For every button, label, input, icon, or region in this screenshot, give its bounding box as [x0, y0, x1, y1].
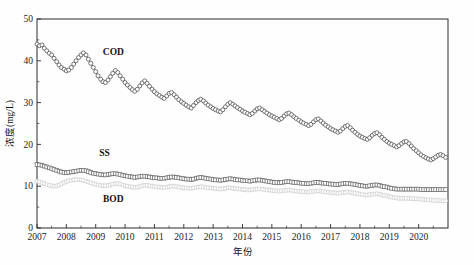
x-tick-label: 2016 — [292, 232, 311, 242]
x-axis-title: 年份 — [233, 246, 253, 257]
line-chart: 01020304050 2007200820092010201120122013… — [0, 0, 474, 265]
series-line-cod — [37, 44, 446, 160]
data-point — [84, 53, 88, 57]
series-annotations: CODSSBOD — [99, 47, 124, 205]
series-label-ss: SS — [99, 148, 110, 158]
y-axis-title: 浓度(mg/L) — [4, 100, 16, 147]
x-axis-ticks: 2007200820092010201120122013201420152016… — [28, 224, 434, 242]
x-tick-label: 2015 — [262, 232, 281, 242]
data-point — [94, 70, 98, 74]
y-tick-label: 40 — [24, 56, 34, 66]
x-tick-label: 2017 — [321, 232, 340, 242]
x-tick-label: 2012 — [174, 232, 193, 242]
data-point — [444, 155, 448, 159]
data-point — [91, 65, 95, 69]
chart-container: 01020304050 2007200820092010201120122013… — [0, 0, 474, 265]
y-tick-label: 50 — [24, 14, 34, 24]
series-cod — [35, 42, 448, 162]
series-label-cod: COD — [103, 47, 124, 57]
y-tick-label: 20 — [24, 140, 34, 150]
x-tick-label: 2018 — [350, 232, 369, 242]
y-tick-label: 10 — [24, 181, 34, 191]
x-tick-label: 2011 — [145, 232, 164, 242]
x-tick-label: 2007 — [28, 232, 47, 242]
x-tick-label: 2010 — [116, 232, 135, 242]
data-point — [89, 61, 93, 65]
x-tick-label: 2009 — [86, 232, 105, 242]
data-point — [444, 188, 448, 192]
y-tick-label: 30 — [24, 98, 34, 108]
x-tick-label: 2020 — [409, 232, 428, 242]
x-tick-label: 2014 — [233, 232, 252, 242]
data-point — [444, 199, 448, 203]
x-tick-label: 2013 — [204, 232, 223, 242]
x-tick-label: 2008 — [57, 232, 76, 242]
series-label-bod: BOD — [103, 194, 124, 204]
x-tick-label: 2019 — [380, 232, 399, 242]
data-series-group — [35, 42, 448, 203]
data-point — [86, 57, 90, 61]
